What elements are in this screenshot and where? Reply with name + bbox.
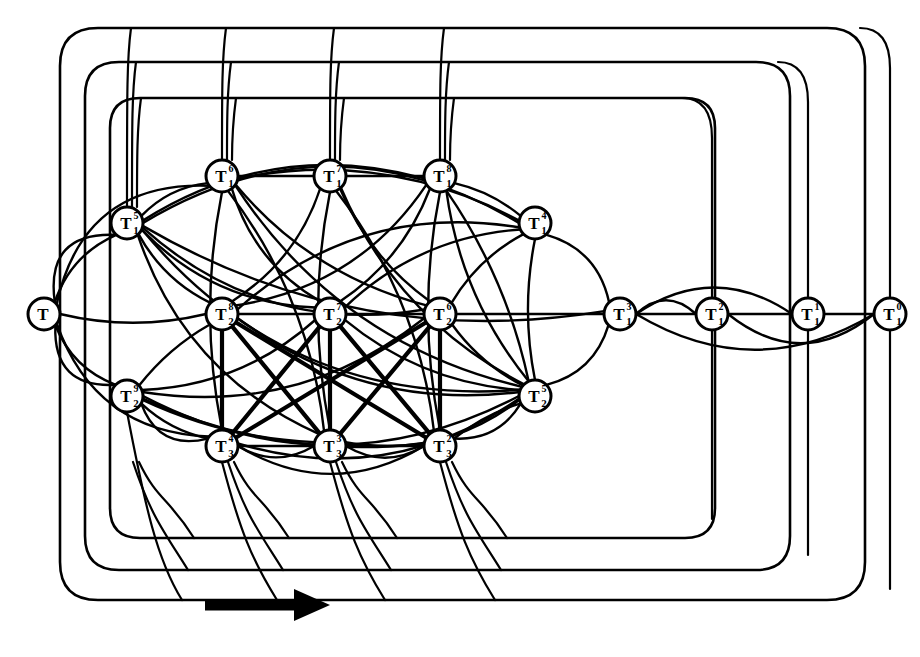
wrap-stem-bottom [440, 462, 495, 600]
node-superscript: 3 [337, 433, 342, 444]
graph-edge [340, 189, 430, 302]
node-subscript: 2 [133, 397, 139, 409]
node-superscript: 9 [134, 383, 139, 394]
node-subscript: 1 [336, 177, 342, 189]
node-T1-a[interactable]: T15 [111, 207, 143, 239]
node-base-label: T [883, 305, 895, 324]
node-T1-b[interactable]: T16 [206, 160, 238, 192]
node-base-label: T [120, 387, 132, 406]
node-subscript: 2 [228, 315, 234, 327]
node-base-label: T [433, 305, 445, 324]
node-base-label: T [705, 305, 717, 324]
node-subscript: 1 [896, 315, 902, 327]
graph-figure: TT15T16T17T18T14T13T12T11T10T29T28T27T26… [0, 0, 920, 657]
wrap-stem-bottom [228, 462, 283, 570]
node-superscript: 1 [815, 301, 820, 312]
graph-edge [546, 235, 609, 303]
wrap-stem-bottom [222, 462, 277, 600]
node-superscript: 5 [542, 383, 547, 394]
wrap-stem [227, 62, 231, 160]
node-T3-b[interactable]: T33 [314, 430, 346, 462]
graph-edge [139, 324, 210, 385]
node-base-label: T [613, 305, 625, 324]
node-base-label: T [528, 214, 540, 233]
node-T1-e[interactable]: T14 [519, 207, 551, 239]
graph-canvas: TT15T16T17T18T14T13T12T11T10T29T28T27T26… [0, 0, 920, 657]
graph-edges [54, 28, 890, 600]
direction-arrow [205, 589, 330, 621]
node-base-label: T [215, 305, 227, 324]
node-subscript: 2 [541, 397, 547, 409]
node-T3-a[interactable]: T34 [206, 430, 238, 462]
node-subscript: 1 [814, 315, 820, 327]
wrap-stem [137, 98, 141, 207]
node-base-label: T [528, 387, 540, 406]
node-base-label: T [323, 305, 335, 324]
node-subscript: 3 [446, 447, 452, 459]
node-T1-d[interactable]: T18 [424, 160, 456, 192]
node-superscript: 4 [542, 210, 547, 221]
node-T3-c[interactable]: T32 [424, 430, 456, 462]
node-base-label: T [433, 167, 445, 186]
graph-edge [238, 170, 519, 221]
node-base-label: T [323, 437, 335, 456]
node-subscript: 3 [336, 447, 342, 459]
node-T1-i[interactable]: T10 [874, 298, 906, 330]
node-subscript: 3 [228, 447, 234, 459]
graph-edge [454, 183, 520, 216]
node-superscript: 3 [627, 301, 632, 312]
node-superscript: 7 [337, 301, 342, 312]
node-T2-d[interactable]: T26 [424, 298, 456, 330]
node-subscript: 1 [718, 315, 724, 327]
node-superscript: 6 [229, 163, 234, 174]
graph-edge [142, 227, 424, 314]
wrap-stem [450, 98, 454, 160]
graph-edge [452, 234, 524, 303]
node-superscript: 2 [447, 433, 452, 444]
node-T2-a[interactable]: T29 [111, 380, 143, 412]
node-subscript: 1 [446, 177, 452, 189]
node-T-root[interactable]: T [28, 298, 60, 330]
node-base-label: T [801, 305, 813, 324]
node-base-label: T [433, 437, 445, 456]
node-subscript: 2 [446, 315, 452, 327]
node-subscript: 2 [336, 315, 342, 327]
wrap-stem-right [682, 98, 712, 298]
node-base-label: T [215, 437, 227, 456]
node-base-label: T [215, 167, 227, 186]
wrap-stem [132, 62, 136, 207]
node-T1-f[interactable]: T13 [604, 298, 636, 330]
wrap-stem-bottom [336, 462, 391, 570]
wrap-stem-right [778, 62, 808, 298]
node-T1-h[interactable]: T11 [792, 298, 824, 330]
node-superscript: 7 [337, 163, 342, 174]
node-subscript: 1 [228, 177, 234, 189]
wrap-stem [232, 98, 236, 160]
node-T2-b[interactable]: T28 [206, 298, 238, 330]
wrap-stem [340, 98, 344, 160]
node-superscript: 0 [897, 301, 902, 312]
node-subscript: 1 [133, 224, 139, 236]
graph-nodes: TT15T16T17T18T14T13T12T11T10T29T28T27T26… [28, 160, 906, 462]
wrap-stem [127, 28, 131, 207]
wrap-stem-bottom [330, 462, 385, 600]
graph-edge [547, 325, 609, 385]
node-T1-c[interactable]: T17 [314, 160, 346, 192]
graph-edge [340, 189, 430, 302]
node-T1-g[interactable]: T12 [696, 298, 728, 330]
node-superscript: 8 [229, 301, 234, 312]
node-superscript: 6 [447, 301, 452, 312]
wrap-stem [330, 28, 334, 160]
node-T2-c[interactable]: T27 [314, 298, 346, 330]
wrap-stem [222, 28, 226, 160]
node-base-label: T [120, 214, 132, 233]
node-base-label: T [323, 167, 335, 186]
arrow-head [294, 589, 330, 621]
wrap-stem-bottom [446, 462, 501, 570]
node-superscript: 8 [447, 163, 452, 174]
node-subscript: 1 [541, 224, 547, 236]
graph-edges-heavy [222, 322, 440, 437]
node-T2-e[interactable]: T25 [519, 380, 551, 412]
wrap-stem [335, 62, 339, 160]
node-superscript: 2 [719, 301, 724, 312]
